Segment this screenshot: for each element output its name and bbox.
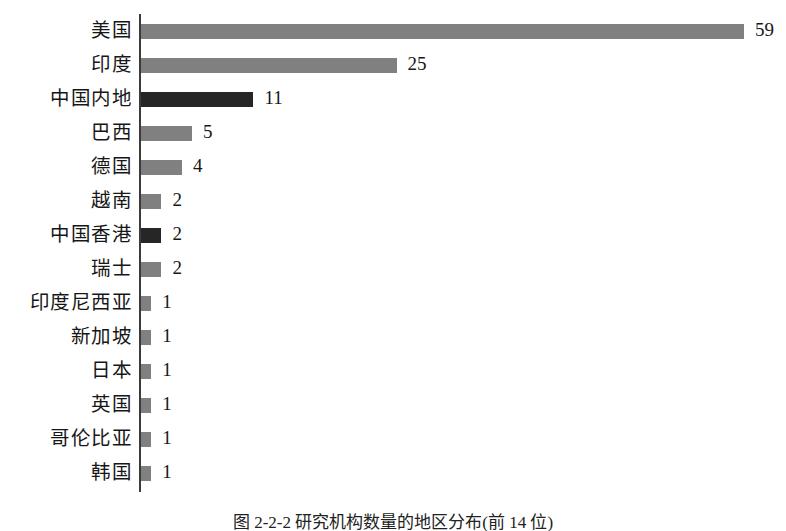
category-label: 哥伦比亚 [0, 429, 132, 449]
bar-row: 巴西5 [0, 116, 786, 150]
category-label: 瑞士 [0, 259, 132, 279]
bar [141, 364, 151, 379]
category-label: 韩国 [0, 463, 132, 483]
bar [141, 398, 151, 413]
bar-value-label: 4 [193, 156, 203, 175]
category-label: 中国香港 [0, 225, 132, 245]
bar-value-label: 2 [172, 258, 182, 277]
bar-row: 哥伦比亚1 [0, 422, 786, 456]
bar-row: 美国59 [0, 14, 786, 48]
bar-row: 越南2 [0, 184, 786, 218]
bar [141, 432, 151, 447]
bar-row: 德国4 [0, 150, 786, 184]
bar [141, 330, 151, 345]
category-label: 印度尼西亚 [0, 293, 132, 313]
bar [141, 126, 192, 141]
bar-row: 瑞士2 [0, 252, 786, 286]
bar-row: 新加坡1 [0, 320, 786, 354]
bar-row: 英国1 [0, 388, 786, 422]
bar [141, 58, 397, 73]
figure-caption: 图 2-2-2 研究机构数量的地区分布(前 14 位) [0, 513, 786, 531]
bar-value-label: 59 [755, 20, 774, 39]
category-label: 越南 [0, 191, 132, 211]
bar [141, 24, 744, 39]
bar-value-label: 1 [162, 326, 172, 345]
bar-row: 印度尼西亚1 [0, 286, 786, 320]
category-label: 新加坡 [0, 327, 132, 347]
category-label: 印度 [0, 55, 132, 75]
bar [141, 296, 151, 311]
bar-value-label: 1 [162, 394, 172, 413]
bar-row: 中国香港2 [0, 218, 786, 252]
bar-value-label: 2 [172, 224, 182, 243]
bar [141, 160, 182, 175]
bar [141, 92, 253, 107]
bar-value-label: 2 [172, 190, 182, 209]
bar-row: 印度25 [0, 48, 786, 82]
bar-value-label: 5 [203, 122, 213, 141]
bar [141, 466, 151, 481]
category-label: 中国内地 [0, 89, 132, 109]
bar-chart-figure: 美国59印度25中国内地11巴西5德国4越南2中国香港2瑞士2印度尼西亚1新加坡… [0, 0, 786, 531]
bar [141, 262, 161, 277]
bar [141, 228, 161, 243]
bar-value-label: 25 [408, 54, 427, 73]
bar-value-label: 1 [162, 360, 172, 379]
bar-row: 中国内地11 [0, 82, 786, 116]
category-label: 美国 [0, 21, 132, 41]
bar-row: 韩国1 [0, 456, 786, 490]
bar-value-label: 1 [162, 462, 172, 481]
category-label: 英国 [0, 395, 132, 415]
category-label: 巴西 [0, 123, 132, 143]
category-label: 德国 [0, 157, 132, 177]
bar-value-label: 1 [162, 428, 172, 447]
category-label: 日本 [0, 361, 132, 381]
bar [141, 194, 161, 209]
bar-value-label: 11 [264, 88, 282, 107]
bar-row: 日本1 [0, 354, 786, 388]
plot-area: 美国59印度25中国内地11巴西5德国4越南2中国香港2瑞士2印度尼西亚1新加坡… [0, 8, 786, 494]
bar-value-label: 1 [162, 292, 172, 311]
